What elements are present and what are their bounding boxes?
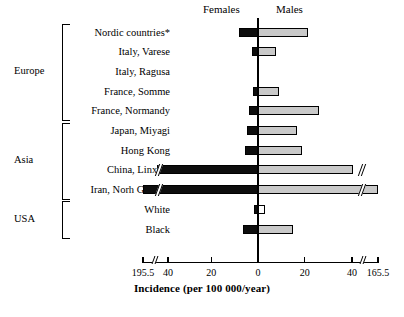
- bar-female: [245, 146, 258, 155]
- bar-female: [239, 28, 258, 37]
- x-axis-tick: [377, 257, 378, 263]
- axis-break-mark: [155, 184, 165, 196]
- x-axis-tick-label: 20: [281, 267, 329, 278]
- x-axis-tick: [211, 257, 212, 263]
- x-axis-tick-label: 0: [234, 267, 282, 278]
- bar-male: [258, 225, 293, 234]
- bar-female: [157, 165, 258, 174]
- bar-male: [258, 47, 276, 56]
- x-axis-tick: [304, 257, 305, 263]
- bar-male: [258, 165, 353, 174]
- x-axis-line: [143, 262, 378, 263]
- x-axis-tick-label: 40: [144, 267, 192, 278]
- axis-break-mark: [151, 256, 161, 264]
- x-axis-tick-label: 165.5: [354, 267, 402, 278]
- bar-male: [258, 28, 308, 37]
- x-axis-tick: [257, 257, 258, 263]
- bar-female: [249, 106, 258, 115]
- bar-male: [258, 146, 302, 155]
- bar-male: [258, 126, 297, 135]
- bar-female: [243, 225, 258, 234]
- x-axis-title: Incidence (per 100 000/year): [0, 282, 404, 294]
- axis-break-mark: [358, 164, 368, 176]
- bar-male: [258, 205, 265, 214]
- plot-area: 195.5402002040165.5: [0, 0, 404, 317]
- axis-break-mark: [358, 184, 368, 196]
- bar-female: [247, 126, 258, 135]
- x-axis-tick: [167, 257, 168, 263]
- bar-male: [258, 106, 319, 115]
- axis-break-mark: [155, 164, 165, 176]
- x-axis-tick: [142, 257, 143, 263]
- axis-break-mark: [359, 256, 369, 264]
- x-axis-tick-label: 20: [187, 267, 235, 278]
- chart-figure: Females Males Nordic countries*Italy, Va…: [0, 0, 404, 317]
- bar-male: [258, 87, 279, 96]
- x-axis-tick: [351, 257, 352, 263]
